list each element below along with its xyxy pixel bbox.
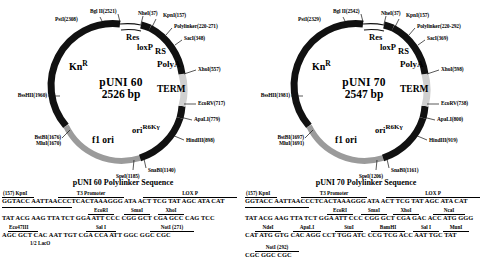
arc-rs: [141, 25, 150, 28]
enzyme-annotation: ApaLI: [293, 224, 321, 232]
site-label-polylinker: Polylinker(220-271): [174, 23, 218, 29]
base-sequence: GGTACC AATTAACCCTCACTAAAGGG ATA ACT TCG …: [0, 197, 242, 205]
site-label-psti: PstI(2329): [298, 16, 321, 22]
arc-res-inner: [364, 30, 384, 31]
site-label-bstbi-mlui: BstBI(1697) MluI(1691): [256, 134, 304, 146]
sequence-title-puni70: pUNI 70 Polylinker Sequence: [243, 178, 485, 187]
enzyme-annotation: BamHI: [371, 224, 405, 232]
feature-label-orir6k: oriR6Kγ: [132, 124, 160, 134]
arc-orir6k-2: [180, 106, 182, 118]
feature-label-knr: KnR: [312, 60, 331, 72]
plasmid-figure: pUNI 60 2526 bp KnR Res loxP RS PolyA TE…: [0, 0, 485, 271]
site-label-bsshii: BssHII(1981): [244, 92, 290, 98]
feature-label-term: TERM: [400, 85, 429, 95]
enzyme-annotation: T3 Promoter: [58, 190, 124, 198]
site-label-polylinker: Polylinker(220-292): [417, 23, 461, 29]
enzyme-annotation: NdeI: [255, 224, 281, 232]
sequence-row: EcoRI SmaI XhoI NcaI TAT ACG AAG TTA TCT…: [243, 207, 485, 224]
site-label-nhei: NheI(37): [138, 10, 158, 16]
enzyme-annotation: [2, 207, 72, 208]
enzyme-annotation: StuI: [335, 224, 363, 232]
sequence-block-puni60: pUNI 60 Polylinker Sequence (157) KpnI T…: [0, 178, 242, 271]
plasmid-name-puni60: pUNI 60: [0, 76, 242, 88]
arc-res-outer: [363, 24, 384, 25]
base-sequence: CGC GGC CGC: [243, 251, 485, 259]
sequence-row: NotI (292) CGC GGC CGC: [243, 244, 485, 261]
base-sequence: TAT ACG AAG TTA TCT GGA ATT CCC CGG GCT …: [243, 214, 485, 222]
site-label-apali: ApaLI(800): [437, 116, 463, 122]
site-label-bglii: Bgl II(2542): [333, 8, 360, 14]
annotation-track: Eco47III Sal I NotI (271): [0, 224, 242, 231]
arc-rs: [384, 25, 393, 28]
feature-label-rs: RS: [398, 47, 409, 56]
site-label-nhei: NheI(37): [381, 10, 401, 16]
enzyme-annotation: EcoRI: [327, 207, 353, 215]
sequence-block-puni70: pUNI 70 Polylinker Sequence (157) KpnI T…: [243, 178, 485, 271]
feature-label-f1ori: f1 ori: [92, 136, 114, 146]
base-sequence: TAT ACG AAG TTA TCT GGA ATT CCC CGG GCT …: [0, 214, 242, 222]
feature-label-polya: PolyA: [157, 60, 181, 69]
enzyme-annotation: LOX P: [143, 190, 237, 198]
lac-operator-note: 1/2 LacO: [0, 239, 242, 247]
site-label-hindiii: HindIII(919): [429, 137, 457, 143]
site-label-saci: SacI(369): [427, 35, 448, 41]
feature-label-loxp: loxP: [380, 43, 396, 52]
panel-puni60: pUNI 60 2526 bp KnR Res loxP RS PolyA TE…: [0, 0, 242, 271]
site-label-apali: ApaLI(779): [194, 116, 220, 122]
site-label-bsshii: BssHII(1960): [1, 92, 47, 98]
feature-label-res: Res: [369, 33, 382, 42]
plasmid-name-puni70: pUNI 70: [243, 76, 485, 88]
site-label-snabi: SnaBI(1161): [391, 167, 418, 173]
sequence-row: (157) KpnI T3 Promoter LOX P GGTACC AATT…: [243, 190, 485, 207]
enzyme-annotation: SmaI: [361, 207, 387, 215]
feature-label-f1ori: f1 ori: [335, 136, 357, 146]
arc-knr: [51, 24, 120, 126]
enzyme-annotation: Sal I: [86, 224, 116, 232]
feature-label-term: TERM: [157, 85, 186, 95]
feature-label-loxp: loxP: [137, 43, 153, 52]
enzyme-annotation: T3 Promoter: [301, 190, 367, 198]
site-label-kpni: KpnI(157): [163, 12, 186, 18]
panel-puni70: pUNI 70 2547 bp KnR Res loxP RS PolyA TE…: [243, 0, 485, 271]
site-label-ecorv: EcoRV(738): [441, 100, 468, 106]
annotation-track: EcoRI SmaI XhoI NcaI: [243, 207, 485, 214]
sequence-row: EcoRI SmaI XhoI TAT ACG AAG TTA TCT GGA …: [0, 207, 242, 224]
feature-label-res: Res: [126, 33, 139, 42]
sequence-row: NdeI ApaLI StuI BamHI Sal I MunI CAT ATG…: [243, 224, 485, 241]
enzyme-annotation: Eco47III: [8, 224, 38, 232]
site-label-psti: PstI(2308): [55, 16, 78, 22]
annotation-track: NdeI ApaLI StuI BamHI Sal I MunI: [243, 224, 485, 231]
feature-label-knr: KnR: [69, 60, 88, 72]
base-sequence: AGC GCT CAC AAT TGT CGA CCA ATT GGC GGC …: [0, 231, 242, 239]
sequence-row: (157) KpnI T3 Promoter LOX P GGTACC AATT…: [0, 190, 242, 207]
enzyme-annotation: Sal I: [413, 224, 439, 232]
enzyme-annotation: SmaI: [124, 207, 150, 215]
base-sequence: CAT ATG GTG CAC AGG CCT TGG ATC CCG TCG …: [243, 231, 485, 239]
arc-knr: [294, 24, 363, 126]
plasmid-map-puni60: pUNI 60 2526 bp KnR Res loxP RS PolyA TE…: [0, 0, 242, 178]
site-label-snabi: SnaBI(1140): [148, 167, 175, 173]
enzyme-annotation: LOX P: [386, 190, 480, 198]
annotation-track: NotI (292): [243, 244, 485, 251]
base-sequence: GGTACC AATTAACCCTCACTAAAGGG ATA ACT TCG …: [243, 197, 485, 205]
site-label-kpni: KpnI(157): [406, 12, 429, 18]
site-label-ecorv: EcoRV(717): [198, 100, 225, 106]
feature-label-rs: RS: [155, 47, 166, 56]
site-label-xhoi: XhoI(598): [441, 66, 463, 72]
sequence-row: Eco47III Sal I NotI (271) AGC GCT CAC AA…: [0, 224, 242, 247]
site-label-hindiii: HindIII(898): [186, 137, 214, 143]
plasmid-map-puni70: pUNI 70 2547 bp KnR Res loxP RS PolyA TE…: [243, 0, 485, 178]
enzyme-annotation: NcaI: [433, 207, 465, 215]
feature-label-orir6k: oriR6Kγ: [375, 124, 403, 134]
enzyme-annotation: (157) KpnI: [2, 190, 34, 198]
annotation-track: EcoRI SmaI XhoI: [0, 207, 242, 214]
site-label-xhoi: XhoI(557): [198, 66, 220, 72]
enzyme-annotation: XhoI: [393, 207, 419, 215]
enzyme-annotation: (157) KpnI: [245, 190, 277, 198]
annotation-track: (157) KpnI T3 Promoter LOX P: [243, 190, 485, 197]
feature-label-polya: PolyA: [400, 60, 424, 69]
enzyme-annotation: EcoRI: [88, 207, 114, 215]
site-label-bglii: Bgl II(2521): [90, 8, 117, 14]
arc-res-inner: [121, 30, 141, 31]
site-label-bstbi-mlui: BstBI(1676) MluI(1670): [13, 134, 61, 146]
